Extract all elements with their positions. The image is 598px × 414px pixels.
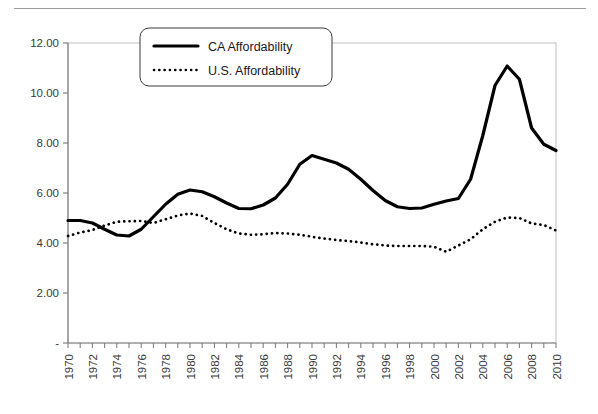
x-axis-tick-label: 1978	[160, 354, 172, 380]
chart-canvas: 12.0010.008.006.004.002.00- 197019721974…	[0, 0, 598, 414]
y-axis-tick-label: 8.00	[37, 137, 59, 149]
x-axis-tick-label: 1974	[111, 353, 123, 379]
x-axis-tick-label: 1976	[136, 354, 148, 380]
x-axis-tick-label: 1972	[87, 354, 99, 380]
x-axis-tick-label: 1980	[185, 354, 197, 380]
chart-page: 12.0010.008.006.004.002.00- 197019721974…	[0, 0, 598, 414]
x-axis-tick-label: 1990	[307, 354, 319, 380]
x-axis-tick-label: 1970	[63, 354, 75, 380]
y-axis-tick-label: 12.00	[30, 37, 59, 49]
x-axis-tick-label: 1994	[355, 353, 367, 379]
x-axis-tick-label: 1996	[380, 354, 392, 380]
x-axis-tick-label: 2010	[551, 354, 563, 380]
series-line-ca-affordability	[68, 66, 556, 236]
x-axis-tick-label: 2000	[429, 354, 441, 380]
x-axis-tick-label: 1988	[282, 354, 294, 380]
legend-label-2: U.S. Affordability	[208, 64, 301, 78]
x-axis-tick-label: 2004	[477, 353, 489, 379]
legend-label-1: CA Affordability	[208, 40, 293, 54]
x-axis-tick-label: 1986	[258, 354, 270, 380]
y-axis-tick-label: -	[55, 337, 59, 349]
y-axis-tick-label: 6.00	[37, 187, 59, 199]
data-series-group	[68, 66, 556, 252]
x-axis: 1970197219741976197819801982198419861988…	[63, 343, 563, 380]
x-axis-tick-label: 1984	[233, 353, 245, 379]
series-line-u-s-affordability	[68, 214, 556, 252]
x-axis-tick-label: 2008	[526, 354, 538, 380]
chart-legend: CA AffordabilityU.S. Affordability	[140, 28, 332, 86]
x-axis-tick-label: 1982	[209, 354, 221, 380]
y-axis-tick-label: 10.00	[30, 87, 59, 99]
affordability-line-chart: 12.0010.008.006.004.002.00- 197019721974…	[0, 0, 598, 414]
y-axis-tick-label: 2.00	[37, 287, 59, 299]
x-axis-tick-label: 1998	[404, 354, 416, 380]
plot-area-border	[68, 43, 556, 343]
x-axis-tick-label: 2006	[502, 354, 514, 380]
y-axis-tick-label: 4.00	[37, 237, 59, 249]
plot-area-rect	[68, 43, 556, 343]
x-axis-tick-label: 2002	[453, 354, 465, 380]
y-axis: 12.0010.008.006.004.002.00-	[30, 37, 68, 349]
x-axis-tick-label: 1992	[331, 354, 343, 380]
